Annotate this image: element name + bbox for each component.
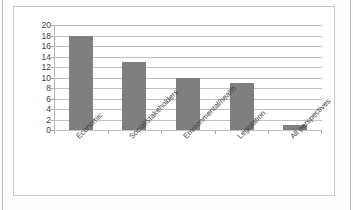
y-tick-mark	[51, 88, 54, 89]
bar	[69, 36, 93, 131]
y-tick-mark	[51, 67, 54, 68]
y-tick-mark	[51, 99, 54, 100]
y-tick-label: 8	[46, 84, 51, 93]
page-background: 02468101214161820 EconomicSocial/stakeho…	[0, 0, 353, 210]
y-tick-mark	[51, 57, 54, 58]
gridline	[54, 57, 322, 58]
y-tick-mark	[51, 109, 54, 110]
page-edge-left	[2, 0, 3, 210]
x-tick-mark	[108, 131, 109, 134]
y-tick-mark	[51, 78, 54, 79]
y-tick-mark	[51, 36, 54, 37]
y-tick-label: 6	[46, 94, 51, 103]
gridline	[54, 46, 322, 47]
y-tick-label: 16	[42, 42, 51, 51]
gridline	[54, 36, 322, 37]
y-tick-mark	[51, 120, 54, 121]
page-edge-right	[350, 0, 351, 210]
x-tick-mark	[321, 131, 322, 134]
y-tick-label: 20	[42, 21, 51, 30]
gridline	[54, 25, 322, 26]
y-tick-label: 10	[42, 73, 51, 82]
x-tick-mark	[268, 131, 269, 134]
y-tick-label: 4	[46, 105, 51, 114]
y-tick-label: 12	[42, 63, 51, 72]
x-tick-mark	[215, 131, 216, 134]
y-tick-mark	[51, 46, 54, 47]
y-tick-label: 2	[46, 115, 51, 124]
y-tick-label: 0	[46, 126, 51, 135]
y-tick-label: 14	[42, 52, 51, 61]
bar-chart: 02468101214161820 EconomicSocial/stakeho…	[36, 25, 322, 133]
y-tick-label: 18	[42, 31, 51, 40]
x-tick-mark	[54, 131, 55, 134]
chart-frame: 02468101214161820 EconomicSocial/stakeho…	[13, 6, 335, 196]
y-tick-mark	[51, 25, 54, 26]
x-tick-mark	[161, 131, 162, 134]
gridline	[54, 67, 322, 68]
